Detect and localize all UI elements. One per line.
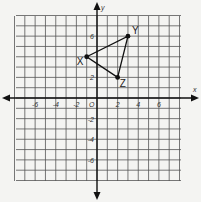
point-label-z: Z [120, 78, 126, 89]
x-tick-label: -2 [73, 101, 79, 108]
y-tick-label: 6 [90, 33, 94, 40]
x-tick-label: 4 [136, 101, 140, 108]
x-tick-label: 6 [157, 101, 161, 108]
point-label-x: X [77, 56, 84, 67]
point-label-y: Y [132, 25, 139, 36]
y-tick-label: -6 [88, 157, 94, 164]
y-tick-label: -2 [88, 116, 94, 123]
coordinate-plane: xyO-6-4-224662-2-4-6XYZ [0, 0, 201, 202]
x-tick-label: 2 [115, 101, 120, 108]
point-y [126, 34, 131, 39]
x-tick-label: -4 [53, 101, 59, 108]
y-axis-up-arrow-icon [94, 2, 101, 10]
x-axis-right-arrow-icon [191, 95, 199, 102]
x-axis-label: x [192, 86, 197, 93]
x-axis-left-arrow-icon [2, 95, 10, 102]
x-tick-label: -6 [32, 101, 38, 108]
y-axis-label: y [100, 4, 105, 12]
origin-label: O [89, 101, 95, 108]
y-tick-label: -4 [88, 136, 94, 143]
point-x [84, 54, 89, 59]
y-tick-label: 2 [89, 74, 94, 81]
y-axis-down-arrow-icon [94, 192, 101, 200]
